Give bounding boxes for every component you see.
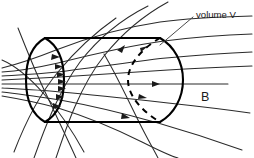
field-line-7 <box>2 66 252 80</box>
flow-arrow-9 <box>140 46 148 52</box>
volume-label: volume V <box>196 9 237 20</box>
field-diagram-svg: volume V B <box>0 0 254 158</box>
cylinder-right-face <box>160 38 183 122</box>
field-line-9 <box>2 88 250 113</box>
field-line-2 <box>34 6 148 158</box>
field-label-b: B <box>201 90 209 104</box>
figure-container: volume V B <box>0 0 254 158</box>
field-lines-group <box>2 2 252 158</box>
field-line-14 <box>104 54 158 158</box>
flow-arrow-10 <box>152 81 160 87</box>
field-line-5 <box>2 34 252 72</box>
field-line-1 <box>56 2 168 158</box>
flow-arrow-11 <box>138 94 147 99</box>
field-line-11 <box>2 96 178 158</box>
